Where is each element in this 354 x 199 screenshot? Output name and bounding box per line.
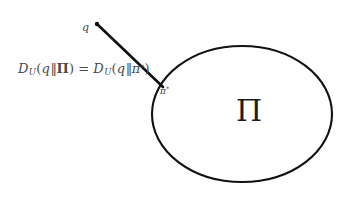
figure-canvas: DU(q‖Π)=DU(q‖π*) q π* Π <box>0 0 354 199</box>
diagram-svg <box>0 0 354 199</box>
projection-point-label: π* <box>160 86 169 96</box>
divergence-formula: DU(q‖Π)=DU(q‖π*) <box>18 62 150 77</box>
formula-rhs-close-paren: ) <box>145 61 150 76</box>
point-q-label: q <box>82 22 89 33</box>
formula-rhs-subscript: U <box>104 67 111 77</box>
formula-rhs-second-arg: π <box>132 61 141 76</box>
formula-rhs-separator: ‖ <box>126 61 132 76</box>
formula-lhs-close-paren: ) <box>69 61 74 76</box>
formula-rhs-d: D <box>93 61 104 76</box>
formula-lhs-separator: ‖ <box>51 61 57 76</box>
projection-line-segment <box>97 24 163 87</box>
formula-lhs-d: D <box>18 61 29 76</box>
formula-relation: = <box>78 61 89 76</box>
set-pi-label: Π <box>236 96 262 126</box>
formula-lhs-first-arg: q <box>41 61 50 76</box>
formula-lhs-second-arg: Π <box>57 61 69 76</box>
projection-point-star: * <box>166 85 169 93</box>
point-q-marker <box>95 22 99 26</box>
formula-rhs-first-arg: q <box>117 61 126 76</box>
